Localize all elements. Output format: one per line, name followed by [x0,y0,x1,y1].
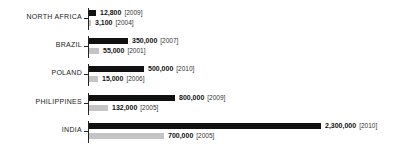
bar-row-earlier: 15,000 [2006] [89,75,145,82]
bar-row-latest: 2,300,000 [2010] [89,122,377,129]
bar-earlier [89,20,91,26]
bar-latest [89,66,144,72]
bar-earlier [89,48,99,54]
bar-row-latest: 500,000 [2010] [89,65,194,72]
year-label: [2006] [126,75,144,82]
category-label: NORTH AFRICA [26,13,82,20]
bar-group: POLAND 500,000 [2010] 15,000 [2006] [0,64,406,88]
value-label: 12,800 [100,9,121,16]
value-label: 3,100 [95,19,113,26]
year-label: [2009] [124,9,142,16]
value-label: 800,000 [179,94,204,101]
bar-group: PHILIPPINES 800,000 [2009] 132,000 [2005… [0,93,406,117]
bar-latest [89,123,321,129]
value-label: 700,000 [168,132,193,139]
category-label: POLAND [51,69,82,76]
year-label: [2004] [116,19,134,26]
bar-row-latest: 800,000 [2009] [89,94,225,101]
bar-row-latest: 12,800 [2009] [89,9,143,16]
category-label: INDIA [62,126,82,133]
value-label: 15,000 [102,75,123,82]
category-label: PHILIPPINES [36,98,82,105]
year-label: [2007] [160,37,178,44]
value-label: 500,000 [148,65,173,72]
bar-latest [89,38,128,44]
bar-row-latest: 350,000 [2007] [89,37,178,44]
value-label: 55,000 [103,47,124,54]
value-label: 350,000 [132,37,157,44]
bar-row-earlier: 55,000 [2001] [89,47,146,54]
value-label: 2,300,000 [325,122,356,129]
year-label: [2010] [176,65,194,72]
year-label: [2005] [140,104,158,111]
bar-earlier [89,76,98,82]
value-label: 132,000 [112,104,137,111]
bar-latest [89,95,175,101]
bar-row-earlier: 3,100 [2004] [89,19,134,26]
year-label: [2005] [196,132,214,139]
year-label: [2009] [207,94,225,101]
bar-group: NORTH AFRICA 12,800 [2009] 3,100 [2004] [0,8,406,32]
bar-latest [89,10,96,16]
bar-row-earlier: 700,000 [2005] [89,132,214,139]
bar-group: INDIA 2,300,000 [2010] 700,000 [2005] [0,121,406,145]
category-label: BRAZIL [56,41,82,48]
year-label: [2010] [359,122,377,129]
year-label: [2001] [127,47,145,54]
bar-group: BRAZIL 350,000 [2007] 55,000 [2001] [0,36,406,60]
bar-row-earlier: 132,000 [2005] [89,104,158,111]
bar-earlier [89,133,164,139]
bar-earlier [89,105,108,111]
